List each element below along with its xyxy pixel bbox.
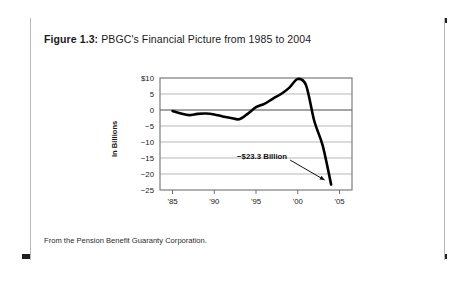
svg-text:'95: '95 <box>251 197 262 206</box>
figure-title-text: PBGC's Financial Picture from 1985 to 20… <box>101 33 311 45</box>
x-axis-ticks: '85'90'95'00'05 <box>167 190 345 206</box>
data-series <box>173 79 332 185</box>
svg-text:−5: −5 <box>145 122 155 131</box>
svg-text:−10: −10 <box>141 138 155 147</box>
svg-text:−$23.3 Billion: −$23.3 Billion <box>237 152 287 161</box>
figure-label: Figure 1.3: <box>44 33 98 45</box>
svg-text:'85: '85 <box>167 197 178 206</box>
svg-text:−15: −15 <box>141 154 155 163</box>
annotation-group: −$23.3 Billion <box>237 152 325 181</box>
svg-text:0: 0 <box>150 106 155 115</box>
y-axis-label: In Billions <box>110 121 119 157</box>
plot-frame <box>160 78 352 190</box>
figure-source-note: From the Pension Benefit Guaranty Corpor… <box>44 236 207 245</box>
svg-text:'05: '05 <box>334 197 345 206</box>
chart-area: $1050−5−10−15−20−25 '85'90'95'00'05 In B… <box>108 62 368 217</box>
svg-text:−20: −20 <box>141 170 155 179</box>
svg-text:'00: '00 <box>293 197 304 206</box>
svg-text:−25: −25 <box>141 186 155 195</box>
y-axis-ticks: $1050−5−10−15−20−25 <box>141 74 155 195</box>
svg-text:'90: '90 <box>209 197 220 206</box>
figure-title: Figure 1.3: PBGC's Financial Picture fro… <box>44 33 311 45</box>
line-chart: $1050−5−10−15−20−25 '85'90'95'00'05 In B… <box>108 62 368 217</box>
svg-text:$10: $10 <box>141 74 155 83</box>
svg-text:5: 5 <box>150 90 155 99</box>
